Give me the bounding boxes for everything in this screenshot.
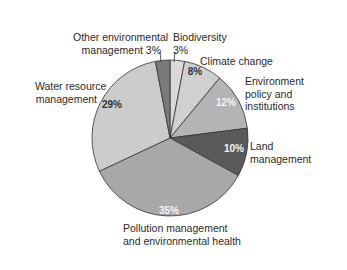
label-biodiversity-line1: Biodiversity (173, 31, 227, 44)
label-pollution: Pollution management and environmental h… (123, 222, 241, 247)
pct-envpol: 12% (216, 97, 236, 108)
label-other-line2: management 3% (73, 44, 161, 57)
label-envpol-line1: Environment (245, 75, 304, 88)
pct-land: 10% (224, 143, 244, 154)
label-water-line1: Water resource (35, 80, 97, 93)
pct-water: 29% (102, 99, 122, 110)
label-water-line2: management (35, 93, 97, 106)
label-land-line2: management (250, 153, 311, 166)
label-land-management: Land management (250, 140, 311, 165)
label-other: Other environmental management 3% (73, 31, 161, 56)
label-biodiversity: Biodiversity 3% (173, 31, 227, 56)
label-other-line1: Other environmental (73, 31, 161, 44)
pie-slices (92, 60, 248, 216)
label-pollution-line1: Pollution management (123, 222, 241, 235)
label-pollution-line2: and environmental health (123, 235, 241, 248)
label-envpol-line2: policy and (245, 88, 304, 101)
label-water-resource: Water resource management (35, 80, 97, 105)
label-envpol-line3: institutions (245, 100, 304, 113)
label-climate-change: Climate change (200, 55, 273, 68)
label-land-line1: Land (250, 140, 311, 153)
pct-pollution: 35% (159, 205, 179, 216)
label-environment-policy: Environment policy and institutions (245, 75, 304, 113)
pct-climate: 8% (188, 66, 202, 77)
